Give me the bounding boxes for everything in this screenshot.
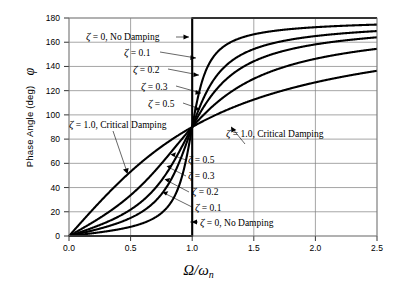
annotation-zeta-10-left: ζ = 1.0, Critical Damping	[69, 118, 166, 130]
annotation-zeta-03-lower: ζ = 0.3	[188, 169, 214, 181]
x-tick-1.5: 1.5	[240, 243, 268, 253]
y-tick-0: 0	[30, 231, 60, 241]
y-tick-160: 160	[30, 37, 60, 47]
annotation-zeta-03-upper: ζ = 0.3	[141, 80, 167, 92]
x-axis-title-subscript: n	[209, 269, 214, 280]
phase-angle-chart: 180 160 140 120 100 80 60 40 20 0 0.0 0.…	[0, 0, 397, 286]
x-tick-0.0: 0.0	[55, 243, 83, 253]
x-tick-2.5: 2.5	[363, 243, 391, 253]
x-tick-0.5: 0.5	[117, 243, 145, 253]
x-axis-title-text: Ω/ω	[183, 262, 209, 278]
x-axis-title: Ω/ωn	[0, 262, 397, 280]
annotation-text: = 0.3	[192, 171, 214, 181]
annotation-text: = 0.1	[128, 48, 150, 58]
annotation-text: = 1.0, Critical Damping	[230, 129, 323, 139]
y-tick-20: 20	[30, 207, 60, 217]
x-tick-1.0: 1.0	[178, 243, 206, 253]
phi-symbol: φ	[22, 68, 37, 86]
annotation-zeta-01-lower: ζ = 0.1	[195, 201, 221, 213]
x-tick-2.0: 2.0	[301, 243, 329, 253]
annotation-zeta-0-lower: ζ = 0, No Damping	[200, 216, 273, 228]
annotation-text: = 0, No Damping	[90, 32, 159, 42]
y-axis-title-text: Phase Angle (deg)	[24, 86, 35, 168]
annotation-text: = 0.5	[192, 155, 214, 165]
annotation-text: = 0.2	[196, 187, 218, 197]
annotation-text: = 0, No Damping	[204, 218, 273, 228]
annotation-zeta-01-upper: ζ = 0.1	[124, 46, 150, 58]
annotation-text: = 0.1	[199, 203, 221, 213]
annotation-zeta-10-right: ζ = 1.0, Critical Damping	[226, 127, 323, 139]
annotation-text: = 0.5	[152, 99, 174, 109]
annotation-zeta-0-upper: ζ = 0, No Damping	[86, 30, 159, 42]
annotation-zeta-02-upper: ζ = 0.2	[133, 63, 159, 75]
annotation-zeta-02-lower: ζ = 0.2	[192, 185, 218, 197]
y-tick-180: 180	[30, 13, 60, 23]
annotation-text: = 0.3	[145, 82, 167, 92]
y-axis-title: Phase Angle (deg)φ	[19, 48, 38, 188]
annotation-zeta-05-lower: ζ = 0.5	[188, 153, 214, 165]
annotation-text: = 1.0, Critical Damping	[73, 120, 166, 130]
annotation-text: = 0.2	[137, 65, 159, 75]
annotation-zeta-05-upper: ζ = 0.5	[148, 97, 174, 109]
